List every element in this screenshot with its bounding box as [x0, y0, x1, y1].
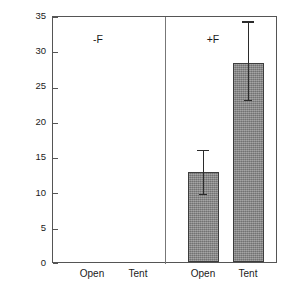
y-tick-label: 5	[24, 223, 46, 233]
y-tick-mark	[53, 193, 58, 194]
error-bar-cap-lower-plus-f-open	[199, 194, 207, 195]
y-tick-label: 10	[24, 188, 46, 198]
y-tick-mark	[53, 263, 58, 264]
y-tick-label: 15	[24, 152, 46, 162]
x-category-label-tent-minus-f: Tent	[118, 268, 158, 279]
y-tick-label: 35	[24, 11, 46, 21]
panel-divider	[165, 17, 166, 264]
y-tick-mark	[53, 88, 58, 89]
y-tick-mark	[53, 123, 58, 124]
error-bar-line-plus-f-open	[203, 151, 204, 195]
x-category-label-open-plus-f: Open	[183, 268, 223, 279]
y-tick-mark	[53, 158, 58, 159]
y-tick-label: 20	[24, 117, 46, 127]
plot-area: -F +F	[52, 16, 277, 263]
error-bar-cap-upper-plus-f-open	[197, 150, 209, 151]
error-bar-cap-upper-plus-f-tent	[242, 21, 254, 22]
y-tick-label: 30	[24, 46, 46, 56]
y-tick-mark	[53, 52, 58, 53]
bar-chart-figure: % flowering 35 30 25 20 15 10 5 0 -F +F	[0, 0, 294, 290]
panel-label-minus-f: -F	[78, 33, 118, 45]
y-tick-label: 25	[24, 81, 46, 91]
error-bar-line-plus-f-tent	[248, 23, 249, 101]
panel-label-plus-f: +F	[193, 33, 233, 45]
x-category-label-open-minus-f: Open	[72, 268, 112, 279]
y-tick-mark	[53, 229, 58, 230]
y-tick-label: 0	[24, 258, 46, 268]
error-bar-cap-lower-plus-f-tent	[244, 100, 252, 101]
x-category-label-tent-plus-f: Tent	[228, 268, 268, 279]
y-tick-mark	[53, 17, 58, 18]
